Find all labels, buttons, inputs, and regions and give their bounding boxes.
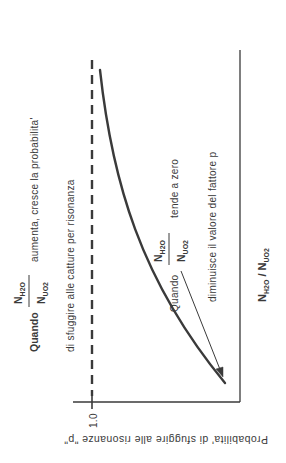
ann-top-num: NH2O — [12, 281, 26, 304]
tick-label-1-0: 1.0 — [88, 413, 99, 428]
ann-top-text2: di sfuggire alle catture per risonanza — [65, 179, 76, 352]
rotated-chart-figure: Quando NH2O NUO2 aumenta, cresce la prob… — [0, 0, 286, 463]
ann-top-den: NUO2 — [35, 282, 49, 304]
x-axis-label: NH2O / NUO2 — [256, 248, 270, 302]
ann-bot-prefix: Quando — [169, 274, 180, 312]
ann-top-prefix: Quando — [28, 312, 40, 352]
ann-bot-num: NH2O — [152, 239, 166, 262]
ann-bot-text1: tende a zero — [169, 159, 180, 218]
ann-top-text1: aumenta, cresce la probabilita' — [29, 117, 40, 262]
ann-bot-den: NUO2 — [175, 240, 189, 262]
ann-bot-text2: diminuisce il valore del fattore p — [207, 152, 218, 302]
annotation-top: Quando NH2O NUO2 aumenta, cresce la prob… — [12, 117, 76, 352]
y-axis-label: Probabilita' di sfuggire alle risonanze … — [64, 434, 268, 446]
